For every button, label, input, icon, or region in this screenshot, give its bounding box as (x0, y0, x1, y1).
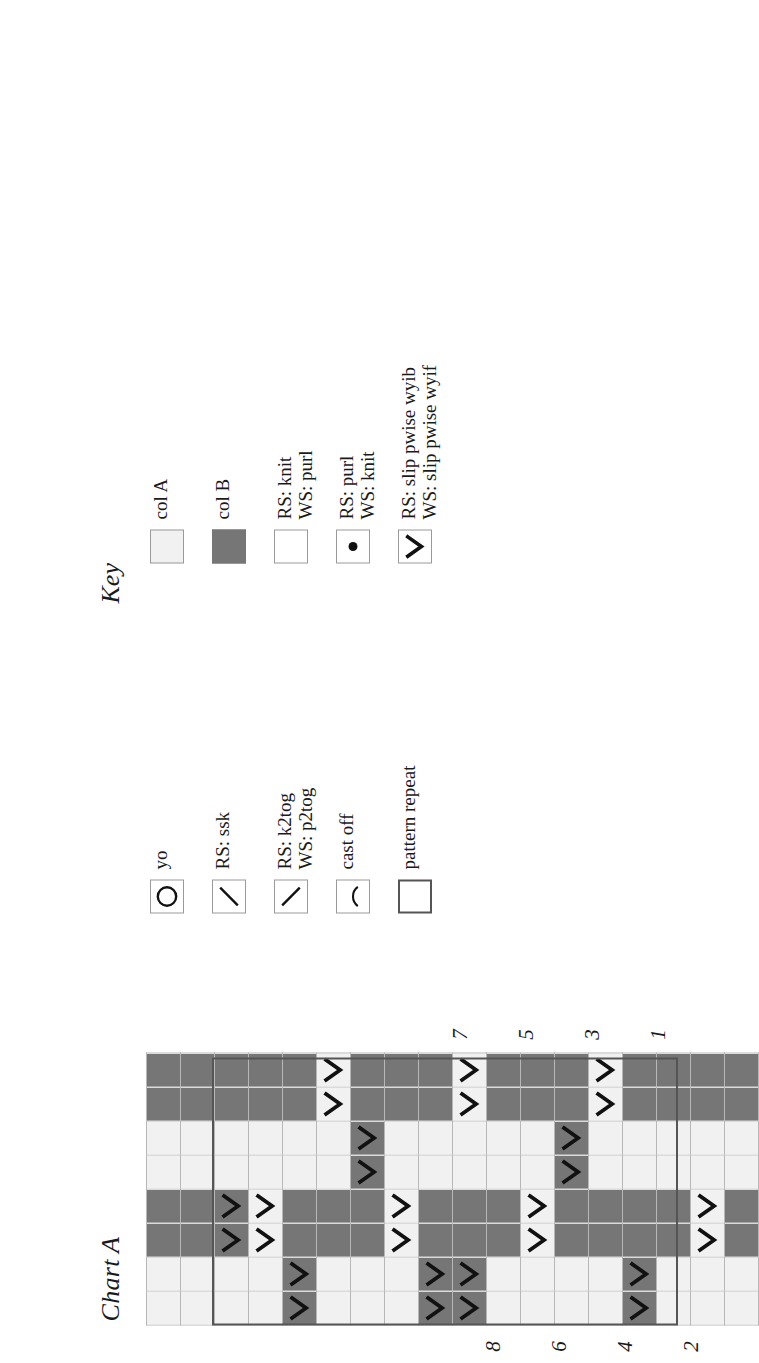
chart-cell (453, 1257, 487, 1291)
chart-cell (589, 1223, 623, 1257)
chart-cell (623, 1223, 657, 1257)
chart-cell (555, 1121, 589, 1155)
slip-stitch-chevron-icon (215, 1223, 248, 1256)
chart-row (589, 1053, 623, 1325)
left-key-item-5: pattern repeat (398, 765, 432, 913)
chart-cell (181, 1257, 215, 1291)
chart-cell (317, 1053, 351, 1087)
chart-cell (589, 1257, 623, 1291)
slip-stitch-chevron-icon (283, 1257, 316, 1290)
chart-cell (317, 1291, 351, 1325)
right-key-item-3: RS: knitWS: purl (274, 450, 317, 563)
slash-down-icon (274, 879, 308, 913)
chart-cell (589, 1087, 623, 1121)
chart-cell (691, 1087, 725, 1121)
chart-cell (385, 1257, 419, 1291)
chart-row (215, 1053, 249, 1325)
chart-cell (351, 1121, 385, 1155)
key-label-text: col A (150, 478, 171, 519)
slash-up-icon (212, 879, 246, 913)
left-key-label-group: RS: k2togWS: p2tog (274, 787, 317, 869)
chart-cell (283, 1121, 317, 1155)
chart-cell (249, 1223, 283, 1257)
chart-cell (453, 1189, 487, 1223)
slip-stitch-chevron-icon (453, 1053, 486, 1086)
slip-stitch-chevron-icon (215, 1189, 248, 1222)
chart-cell (419, 1189, 453, 1223)
chart-cell (691, 1223, 725, 1257)
slip-stitch-chevron-icon (419, 1291, 452, 1324)
chart-cell (147, 1257, 181, 1291)
chart-cell (487, 1257, 521, 1291)
chart-cell (181, 1121, 215, 1155)
chart-row (453, 1053, 487, 1325)
slip-stitch-chevron-icon (521, 1189, 554, 1222)
chart-cell (487, 1087, 521, 1121)
right-key-item-4: RS: purlWS: knit (336, 451, 379, 563)
slip-stitch-chevron-icon (453, 1257, 486, 1290)
chart-cell (283, 1189, 317, 1223)
key-label-text: RS: purl (336, 451, 357, 519)
chart-cell (623, 1189, 657, 1223)
left-key-item-4: cast off (336, 813, 370, 913)
row-number-4: 4 (613, 1333, 638, 1359)
chart-cell (725, 1189, 759, 1223)
slip-stitch-chevron-icon (249, 1189, 282, 1222)
chart-cell (555, 1257, 589, 1291)
right-key-item-2: col B (212, 478, 246, 563)
chart-cell (691, 1121, 725, 1155)
chart-cell (215, 1189, 249, 1223)
chart-row (691, 1053, 725, 1325)
left-key-label-group: RS: ssk (212, 811, 233, 869)
chart-cell (623, 1121, 657, 1155)
chart-cell (487, 1053, 521, 1087)
chart-cell (555, 1291, 589, 1325)
chart-cell (181, 1053, 215, 1087)
chart-row (351, 1053, 385, 1325)
chart-cell (623, 1155, 657, 1189)
key-label-text: RS: ssk (212, 811, 233, 869)
chart-row (725, 1053, 759, 1325)
slip-stitch-chevron-icon (385, 1189, 418, 1222)
chart-cell (555, 1053, 589, 1087)
chart-cell (623, 1257, 657, 1291)
chart-cell (249, 1155, 283, 1189)
chart-cell (521, 1155, 555, 1189)
slip-stitch-chevron-icon (249, 1223, 282, 1256)
chart-cell (691, 1189, 725, 1223)
chart-cell (657, 1053, 691, 1087)
chart-cell (555, 1189, 589, 1223)
slip-stitch-chevron-icon (691, 1189, 724, 1222)
row-number-3: 3 (580, 1021, 605, 1047)
key-label-text: RS: knit (274, 450, 295, 519)
chart-cell (657, 1257, 691, 1291)
chart-cell (215, 1257, 249, 1291)
chart-cell (589, 1121, 623, 1155)
chart-cell (351, 1189, 385, 1223)
chart-cell (521, 1087, 555, 1121)
chart-cell (725, 1291, 759, 1325)
slip-stitch-chevron-icon (691, 1223, 724, 1256)
chart-cell (283, 1087, 317, 1121)
chart-cell (657, 1189, 691, 1223)
chart-cell (385, 1053, 419, 1087)
chart-cell (453, 1155, 487, 1189)
chart-cell (419, 1155, 453, 1189)
chart-cell (249, 1291, 283, 1325)
chart-cell (147, 1087, 181, 1121)
chart-cell (589, 1155, 623, 1189)
chart-cell (181, 1291, 215, 1325)
chart-cell (283, 1257, 317, 1291)
chart-cell (521, 1189, 555, 1223)
chart-cell (691, 1053, 725, 1087)
chart-cell (725, 1155, 759, 1189)
chart-cell (555, 1223, 589, 1257)
slip-stitch-chevron-icon (317, 1087, 350, 1120)
right-key-label-group: col B (212, 478, 233, 519)
chart-row (147, 1053, 181, 1325)
chart-cell (351, 1257, 385, 1291)
slip-stitch-chevron-icon (419, 1257, 452, 1290)
slip-stitch-chevron-icon (283, 1291, 316, 1324)
chart-cell (487, 1291, 521, 1325)
chart-cell (691, 1291, 725, 1325)
